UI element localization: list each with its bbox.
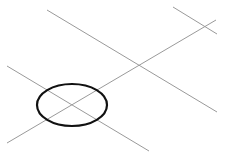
diagram-drawing [0,0,231,157]
upper-diagonal-line [47,10,217,112]
short-top-right-line [173,7,217,34]
rising-diagonal-line [7,20,216,143]
isometric-diagram [0,0,231,157]
lower-diagonal-line [7,66,149,151]
